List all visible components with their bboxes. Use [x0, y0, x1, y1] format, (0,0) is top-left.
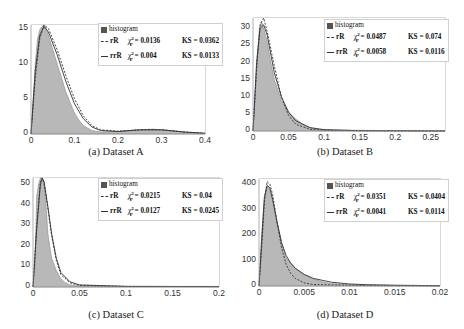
- legend-entry: histogram: [101, 180, 219, 189]
- chi-square-value: χ2P = 0.0041: [354, 205, 408, 220]
- chi-square-value: χ2P = 0.004: [128, 49, 182, 64]
- legend-label: histogram: [335, 181, 364, 190]
- legend-label: rR: [110, 37, 126, 46]
- chi-square-value: χ2P = 0.0351: [354, 190, 408, 205]
- y-tick-label: 20: [6, 239, 30, 249]
- x-tick-label: 0.2: [389, 132, 401, 142]
- legend-label: rrR: [110, 52, 126, 61]
- x-tick-label: 0.1: [69, 135, 81, 145]
- legend-entry: rrRχ2P = 0.0041KS = 0.0114: [327, 205, 445, 220]
- x-tick-label: 0: [31, 288, 36, 298]
- line-sample-icon: [101, 41, 108, 42]
- y-tick-label: 40: [6, 198, 30, 208]
- line-sample-icon: [101, 196, 108, 197]
- y-tick-label: 0: [232, 279, 256, 289]
- chi-square-value: χ2P = 0.0215: [128, 189, 182, 204]
- caption-d: (d) Dataset D: [317, 309, 374, 320]
- x-tick-label: 0.2: [112, 135, 124, 145]
- y-tick-label: 5: [4, 92, 28, 102]
- x-tick-label: 0.25: [422, 132, 439, 142]
- chi-square-value: χ2P = 0.0127: [128, 204, 182, 219]
- line-sample-icon: [327, 37, 334, 38]
- legend-d: histogramrRχ2P = 0.0351KS = 0.0404rrRχ2P…: [324, 179, 449, 222]
- histogram-swatch-icon: [101, 182, 107, 188]
- y-tick-label: 200: [232, 228, 256, 238]
- x-tick-label: 0.005: [294, 287, 315, 297]
- x-tick-label: 0.01: [341, 287, 358, 297]
- x-tick-label: 0.15: [164, 288, 181, 298]
- y-tick-label: 25: [226, 38, 250, 48]
- y-tick-label: 10: [6, 259, 30, 269]
- x-tick-label: 0.1: [120, 288, 132, 298]
- caption-b: (b) Dataset B: [317, 146, 373, 157]
- legend-label: rR: [336, 193, 352, 202]
- y-tick-label: 15: [226, 73, 250, 83]
- y-tick-label: 15: [4, 22, 28, 32]
- line-sample-icon: [101, 211, 108, 212]
- y-tick-label: 0: [4, 127, 28, 137]
- legend-label: rrR: [336, 48, 352, 57]
- y-tick-label: 30: [226, 21, 250, 31]
- chi-square-value: χ2P = 0.0487: [354, 30, 408, 45]
- chi-square-value: χ2P = 0.0136: [128, 34, 182, 49]
- line-sample-icon: [327, 197, 334, 198]
- chi-square-value: χ2P = 0.0058: [354, 45, 408, 60]
- legend-entry: rRχ2P = 0.0215KS = 0.04: [101, 189, 219, 204]
- legend-entry: histogram: [327, 21, 445, 30]
- y-tick-label: 400: [232, 177, 256, 187]
- x-tick-label: 0.15: [351, 132, 368, 142]
- legend-label: histogram: [109, 25, 138, 34]
- x-tick-label: 0.1: [318, 132, 330, 142]
- legend-a: histogramrRχ2P = 0.0136KS = 0.0362rrRχ2P…: [98, 23, 223, 66]
- y-tick-label: 0: [6, 280, 30, 290]
- line-sample-icon: [327, 212, 334, 213]
- x-tick-label: 0.05: [280, 132, 297, 142]
- histogram-swatch-icon: [101, 27, 107, 33]
- legend-label: rrR: [336, 208, 352, 217]
- line-sample-icon: [101, 56, 108, 57]
- histogram-swatch-icon: [327, 23, 333, 29]
- legend-entry: rrRχ2P = 0.004KS = 0.0133: [101, 49, 219, 64]
- y-tick-label: 10: [4, 57, 28, 67]
- y-tick-label: 50: [6, 177, 30, 187]
- ks-value: KS = 0.0114: [408, 208, 445, 217]
- y-tick-label: 30: [6, 218, 30, 228]
- x-tick-label: 0.02: [432, 287, 449, 297]
- ks-value: KS = 0.04: [182, 192, 212, 201]
- legend-label: histogram: [109, 180, 138, 189]
- legend-entry: rRχ2P = 0.0487KS = 0.074: [327, 30, 445, 45]
- ks-value: KS = 0.0245: [182, 207, 219, 216]
- x-tick-label: 0: [257, 287, 262, 297]
- ks-value: KS = 0.0362: [182, 37, 219, 46]
- line-sample-icon: [327, 52, 334, 53]
- y-tick-label: 0: [226, 124, 250, 134]
- legend-b: histogramrRχ2P = 0.0487KS = 0.074rrRχ2P …: [324, 19, 449, 62]
- y-tick-label: 300: [232, 203, 256, 213]
- legend-label: rR: [336, 33, 352, 42]
- legend-c: histogramrRχ2P = 0.0215KS = 0.04rrRχ2P =…: [98, 178, 223, 221]
- legend-label: rrR: [110, 207, 126, 216]
- legend-entry: histogram: [101, 25, 219, 34]
- legend-entry: rRχ2P = 0.0351KS = 0.0404: [327, 190, 445, 205]
- caption-a: (a) Dataset A: [88, 146, 143, 157]
- ks-value: KS = 0.074: [408, 33, 441, 42]
- legend-entry: histogram: [327, 181, 445, 190]
- x-tick-label: 0.2: [213, 288, 225, 298]
- ks-value: KS = 0.0133: [182, 52, 219, 61]
- legend-label: histogram: [335, 21, 364, 30]
- legend-entry: rrRχ2P = 0.0127KS = 0.0245: [101, 204, 219, 219]
- x-tick-label: 0: [251, 132, 256, 142]
- y-tick-label: 20: [226, 56, 250, 66]
- y-tick-label: 5: [226, 107, 250, 117]
- caption-c: (c) Dataset C: [88, 309, 143, 320]
- x-tick-label: 0: [29, 135, 34, 145]
- legend-entry: rRχ2P = 0.0136KS = 0.0362: [101, 34, 219, 49]
- ks-value: KS = 0.0404: [408, 193, 445, 202]
- y-tick-label: 100: [232, 254, 256, 264]
- ks-value: KS = 0.0116: [408, 48, 445, 57]
- histogram-swatch-icon: [327, 183, 333, 189]
- y-tick-label: 10: [226, 90, 250, 100]
- legend-entry: rrRχ2P = 0.0058KS = 0.0116: [327, 45, 445, 60]
- legend-label: rR: [110, 192, 126, 201]
- x-tick-label: 0.4: [199, 135, 211, 145]
